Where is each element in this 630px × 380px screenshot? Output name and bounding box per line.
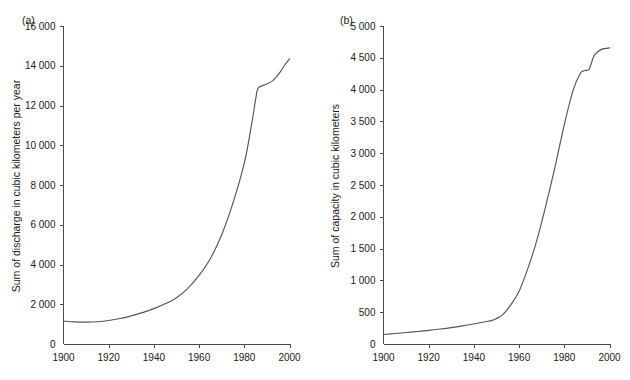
y-axis-ticks-b: 05001 0001 5002 0002 5003 0003 5004 0004… (350, 21, 383, 350)
y-tick-label: 12 000 (25, 100, 56, 111)
y-axis-title-a: Sum of discharge in cubic kilometers per… (10, 79, 22, 292)
y-tick-label: 5 000 (350, 21, 375, 32)
y-tick-label: 0 (370, 339, 376, 350)
y-tick-label: 4 000 (350, 84, 375, 95)
data-series-line-a (64, 59, 290, 322)
chart-panel-a: (a) Sum of discharge in cubic kilometers… (0, 0, 315, 380)
y-tick-label: 6 000 (30, 219, 55, 230)
x-tick-label: 1920 (418, 352, 441, 363)
chart-svg-a: (a) Sum of discharge in cubic kilometers… (0, 0, 315, 380)
y-tick-label: 16 000 (25, 21, 56, 32)
y-axis-title-b: Sum of capacity in cubic kilometers (329, 104, 341, 268)
y-tick-label: 4 000 (30, 259, 55, 270)
x-tick-label: 1980 (233, 352, 256, 363)
x-tick-label: 2000 (278, 352, 301, 363)
x-tick-label: 1920 (98, 352, 121, 363)
x-tick-label: 1960 (188, 352, 211, 363)
x-tick-label: 1940 (463, 352, 486, 363)
x-tick-label: 1900 (52, 352, 75, 363)
chart-svg-b: (b) Sum of capacity in cubic kilometers … (315, 0, 630, 380)
x-tick-label: 1980 (553, 352, 576, 363)
figure-container: (a) Sum of discharge in cubic kilometers… (0, 0, 630, 380)
x-axis-ticks-a: 190019201940196019802000 (52, 344, 301, 363)
x-tick-label: 1900 (372, 352, 395, 363)
y-axis-ticks-a: 02 0004 0006 0008 00010 00012 00014 0001… (25, 21, 64, 350)
data-series-line-b (384, 48, 610, 335)
y-tick-label: 3 000 (350, 148, 375, 159)
y-tick-label: 1 500 (350, 243, 375, 254)
x-tick-label: 1960 (508, 352, 531, 363)
y-tick-label: 8 000 (30, 180, 55, 191)
x-tick-label: 2000 (598, 352, 621, 363)
y-tick-label: 2 000 (30, 299, 55, 310)
y-tick-label: 2 000 (350, 211, 375, 222)
y-tick-label: 0 (50, 339, 56, 350)
y-tick-label: 2 500 (350, 180, 375, 191)
y-tick-label: 14 000 (25, 60, 56, 71)
y-tick-label: 500 (359, 307, 376, 318)
chart-panel-b: (b) Sum of capacity in cubic kilometers … (315, 0, 630, 380)
x-tick-label: 1940 (143, 352, 166, 363)
y-tick-label: 3 500 (350, 116, 375, 127)
x-axis-ticks-b: 190019201940196019802000 (372, 344, 621, 363)
y-tick-label: 4 500 (350, 52, 375, 63)
y-tick-label: 1 000 (350, 275, 375, 286)
y-tick-label: 10 000 (25, 140, 56, 151)
